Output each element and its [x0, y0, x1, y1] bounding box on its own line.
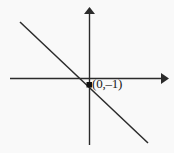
x-axis-arrow-icon	[161, 73, 169, 84]
y-axis-arrow-icon	[84, 7, 95, 14]
plotted-line	[20, 22, 148, 143]
coordinate-plane-svg	[0, 0, 174, 153]
point-label: (0,–1)	[92, 76, 122, 91]
graph-figure: (0,–1)	[0, 0, 174, 153]
